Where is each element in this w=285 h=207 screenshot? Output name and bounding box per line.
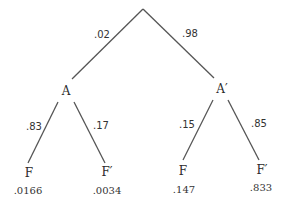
probability-tree-diagram: .02 .98 A A′ .83 .17 .15 .85 F F′ F F′ .… (0, 0, 285, 207)
leaf-A-F-prime: F′ (101, 165, 112, 179)
leaf-A-F: F (25, 166, 33, 180)
edge-root-to-A-prime (143, 9, 214, 78)
tree-edges (0, 0, 285, 207)
edge-root-to-A (72, 9, 143, 79)
joint-A-F-prime: .0034 (93, 185, 122, 196)
node-A-prime: A′ (216, 82, 227, 96)
prob-A-F: .83 (26, 121, 42, 132)
edge-A-to-F-prime (74, 102, 105, 163)
node-A: A (62, 84, 71, 98)
prob-root-A-prime: .98 (182, 28, 198, 39)
prob-A-F-prime: .17 (93, 120, 109, 131)
prob-root-A: .02 (94, 29, 110, 40)
edge-A-to-F (28, 102, 58, 163)
joint-A-prime-F-prime: .833 (250, 182, 272, 193)
leaf-A-prime-F: F (179, 164, 187, 178)
leaf-A-prime-F-prime: F′ (256, 163, 267, 177)
prob-A-prime-F: .15 (179, 119, 195, 130)
prob-A-prime-F-prime: .85 (251, 118, 267, 129)
joint-A-F: .0166 (14, 185, 43, 196)
edge-A-prime-to-F (183, 100, 213, 160)
edge-A-prime-to-F-prime (228, 100, 259, 160)
joint-A-prime-F: .147 (173, 184, 195, 195)
